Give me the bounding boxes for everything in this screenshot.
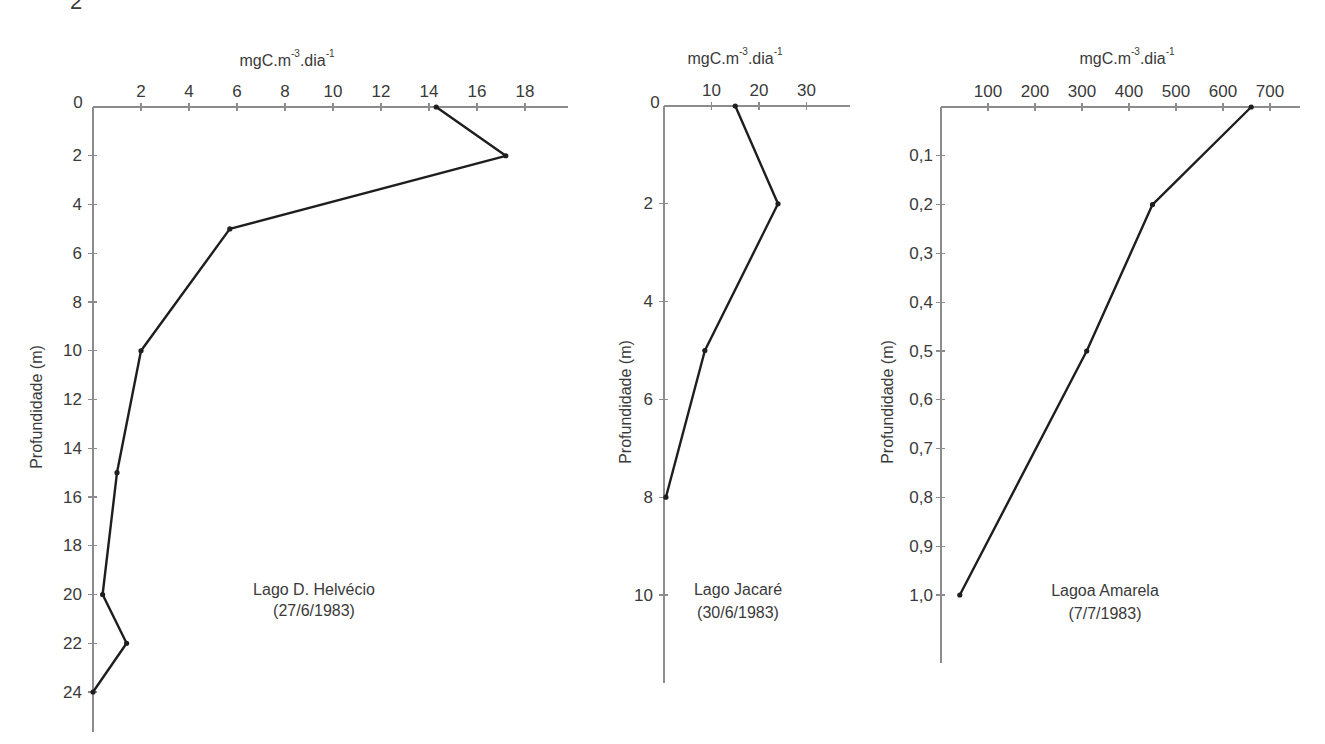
y-tick-label: 0,2 — [909, 195, 933, 214]
x-tick-label: 600 — [1209, 82, 1237, 101]
x-axis-title-exponent: -1 — [326, 48, 335, 59]
y-tick-label: 0,4 — [909, 293, 933, 312]
data-point-marker — [138, 348, 143, 353]
y-tick-label: 4 — [644, 292, 653, 311]
y-tick-label: 6 — [73, 244, 82, 263]
x-axis-title-base: mgC.m — [687, 50, 739, 67]
y-tick-label: 0,1 — [909, 146, 933, 165]
data-point-marker — [100, 592, 105, 597]
y-tick-label: 6 — [644, 390, 653, 409]
y-axis-title: Profundidade (m) — [879, 340, 896, 464]
y-tick-label: 0,9 — [909, 537, 933, 556]
y-tick-label: 10 — [634, 586, 653, 605]
x-tick-label: 400 — [1115, 82, 1143, 101]
x-tick-label: 30 — [797, 81, 816, 100]
chart-lago-d-helvecio: mgC.m-3.dia-1 Profundidade (m) 246810121… — [28, 48, 569, 732]
x-tick-label: 100 — [974, 82, 1002, 101]
x-axis-title: mgC.m-3.dia-1 — [1079, 46, 1175, 67]
y-tick-label: 2 — [644, 194, 653, 213]
y-tick-label: 8 — [644, 488, 653, 507]
y-tick-label: 14 — [63, 439, 82, 458]
data-point-marker — [227, 226, 232, 231]
x-tick-label: 12 — [372, 82, 391, 101]
y-tick-label: 0,3 — [909, 244, 933, 263]
x-tick-label: 20 — [750, 81, 769, 100]
x-axis-title-unit: .dia — [300, 52, 326, 69]
chart-caption-date: (27/6/1983) — [273, 602, 355, 619]
y-tick-label: 8 — [73, 293, 82, 312]
origin-label: 0 — [650, 93, 659, 112]
y-tick-label: 0,8 — [909, 488, 933, 507]
data-point-marker — [663, 495, 668, 500]
x-tick-label: 16 — [468, 82, 487, 101]
data-point-marker — [702, 348, 707, 353]
chart-lago-jacare: mgC.m-3.dia-1 Profundidade (m) 102030246… — [617, 46, 851, 683]
figure-number-label: 2 — [70, 0, 82, 14]
x-tick-label: 8 — [280, 82, 289, 101]
y-tick-label: 10 — [63, 341, 82, 360]
chart-caption-date: (7/7/1983) — [1069, 605, 1142, 622]
x-axis-title-unit: .dia — [1140, 50, 1166, 67]
x-tick-label: 14 — [420, 82, 439, 101]
y-tick-label: 0,5 — [909, 342, 933, 361]
figure-canvas: 2 mgC.m-3.dia-1 Profundidade (m) 2468101… — [0, 0, 1325, 744]
chart-lagoa-amarela: mgC.m-3.dia-1 Profundidade (m) 100200300… — [879, 46, 1301, 663]
x-tick-label: 300 — [1068, 82, 1096, 101]
x-axis-title-exponent: -1 — [1166, 46, 1175, 57]
x-axis-title-unit: .dia — [748, 50, 774, 67]
y-tick-label: 22 — [63, 634, 82, 653]
data-series-line — [960, 107, 1251, 595]
data-point-marker — [1249, 104, 1254, 109]
data-point-marker — [957, 592, 962, 597]
y-tick-label: 12 — [63, 390, 82, 409]
chart-caption-date: (30/6/1983) — [697, 604, 779, 621]
x-tick-label: 200 — [1021, 82, 1049, 101]
data-point-marker — [775, 201, 780, 206]
data-series-line — [666, 106, 778, 497]
y-tick-label: 1,0 — [909, 586, 933, 605]
data-point-marker — [90, 689, 95, 694]
data-point-marker — [503, 153, 508, 158]
data-point-marker — [124, 641, 129, 646]
x-tick-label: 10 — [702, 81, 721, 100]
y-tick-label: 20 — [63, 585, 82, 604]
chart-caption-lake: Lagoa Amarela — [1051, 582, 1159, 599]
x-tick-label: 6 — [232, 82, 241, 101]
data-point-marker — [1084, 348, 1089, 353]
y-tick-label: 0,7 — [909, 439, 933, 458]
plot-area: 1002003004005006007000,10,20,30,40,50,60… — [909, 82, 1300, 663]
data-point-marker — [114, 470, 119, 475]
chart-caption-lake: Lago Jacaré — [694, 581, 782, 598]
y-tick-label: 0,6 — [909, 390, 933, 409]
x-tick-label: 10 — [324, 82, 343, 101]
x-axis-title-base: mgC.m — [1079, 50, 1131, 67]
x-tick-label: 4 — [184, 82, 193, 101]
y-axis-title: Profundidade (m) — [28, 345, 45, 469]
x-tick-label: 18 — [516, 82, 535, 101]
x-tick-label: 500 — [1162, 82, 1190, 101]
x-axis-title: mgC.m-3.dia-1 — [239, 48, 335, 69]
data-point-marker — [1150, 202, 1155, 207]
x-tick-label: 2 — [136, 82, 145, 101]
chart-caption-lake: Lago D. Helvécio — [253, 581, 375, 598]
y-tick-label: 16 — [63, 488, 82, 507]
y-tick-label: 24 — [63, 683, 82, 702]
data-point-marker — [733, 103, 738, 108]
x-axis-title-exponent: -1 — [774, 46, 783, 57]
y-tick-label: 4 — [73, 195, 82, 214]
x-axis-title: mgC.m-3.dia-1 — [687, 46, 783, 67]
plot-area: 24681012141618246810121416182022240 — [63, 82, 568, 732]
y-tick-label: 18 — [63, 536, 82, 555]
origin-label: 0 — [73, 93, 82, 112]
x-axis-title-base: mgC.m — [239, 52, 291, 69]
data-point-marker — [434, 104, 439, 109]
y-axis-title: Profundidade (m) — [617, 340, 634, 464]
x-tick-label: 700 — [1256, 82, 1284, 101]
y-tick-label: 2 — [73, 146, 82, 165]
